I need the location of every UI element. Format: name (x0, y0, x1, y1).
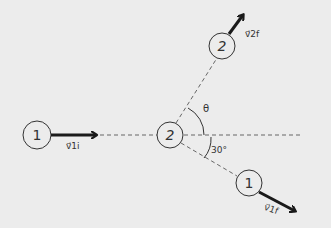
theta-arc (188, 108, 204, 135)
dashed-line-to-p1f (181, 143, 237, 176)
particle-1-final-label: 1 (239, 176, 259, 190)
particle-2-final-label: 2 (212, 39, 232, 53)
thirty-degree-arc (204, 137, 211, 158)
v2f-label: v⃗2f (245, 30, 259, 39)
particle-1-initial-label: 1 (27, 128, 47, 142)
collision-diagram: 1 2 2 1 v⃗1i v⃗2f v⃗1f θ 30° (0, 0, 331, 228)
dashed-line-to-p2f (176, 58, 217, 123)
v2f-arrow (229, 15, 243, 34)
theta-label: θ (203, 104, 209, 114)
thirty-degree-label: 30° (211, 146, 227, 155)
v1i-label: v⃗1i (66, 142, 80, 151)
particle-2-target-label: 2 (160, 128, 180, 142)
diagram-drawing (0, 0, 331, 228)
